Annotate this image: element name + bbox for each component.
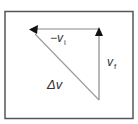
label-neg-vi-sub: i	[64, 38, 66, 47]
label-neg-vi: −vi	[50, 32, 66, 44]
label-vf-sub: f	[114, 62, 116, 71]
vector-diagram: −vi vf Δv	[0, 0, 138, 124]
label-vf-main: v	[107, 55, 113, 69]
label-delta-v: Δv	[47, 78, 62, 91]
label-vf: vf	[107, 56, 116, 68]
vector-diagram-canvas	[0, 0, 138, 124]
label-delta-v-main: Δv	[47, 77, 62, 92]
label-neg-vi-main: −v	[50, 31, 63, 45]
